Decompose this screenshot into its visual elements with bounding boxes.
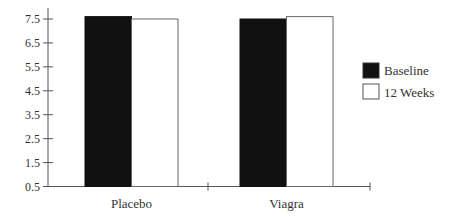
legend-label-baseline: Baseline <box>384 63 429 78</box>
y-tick-label: 7.5 <box>25 12 40 26</box>
y-tick-label: 2.5 <box>25 132 40 146</box>
legend-label-12-weeks: 12 Weeks <box>384 85 434 100</box>
y-tick-label: 3.5 <box>25 108 40 122</box>
y-tick-label: 5.5 <box>25 60 40 74</box>
bar-placebo-12-weeks <box>132 19 179 187</box>
legend-swatch-baseline <box>363 63 379 78</box>
y-tick-label: 6.5 <box>25 36 40 50</box>
y-tick-label: 4.5 <box>25 84 40 98</box>
bar-viagra-12-weeks <box>287 17 334 187</box>
bar-viagra-baseline <box>240 19 287 187</box>
y-tick-label: 1.5 <box>25 156 40 170</box>
x-category-label: Viagra <box>269 196 304 211</box>
bar-chart: 0.51.52.53.54.55.56.57.5 PlaceboViagra B… <box>0 0 454 220</box>
legend: Baseline 12 Weeks <box>363 63 434 100</box>
y-tick-label: 0.5 <box>25 180 40 194</box>
bar-placebo-baseline <box>85 17 132 187</box>
bars <box>85 17 333 187</box>
legend-swatch-12-weeks <box>363 84 379 99</box>
x-category-label: Placebo <box>111 196 152 211</box>
y-axis: 0.51.52.53.54.55.56.57.5 <box>25 8 53 194</box>
